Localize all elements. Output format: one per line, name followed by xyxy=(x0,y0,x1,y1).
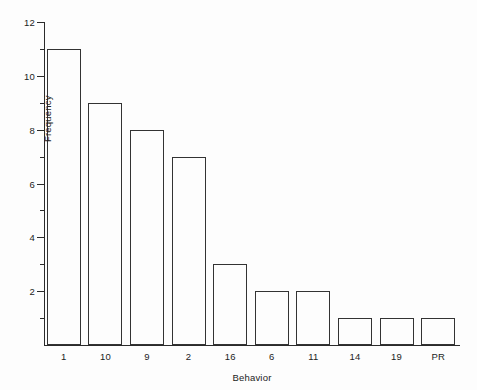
bar xyxy=(213,264,247,345)
y-axis-tick xyxy=(40,157,44,158)
y-axis-title: Frequency xyxy=(42,95,53,142)
x-axis-title: Behavior xyxy=(44,372,460,383)
bar xyxy=(130,130,164,345)
x-axis-tick-label: 11 xyxy=(308,351,318,362)
x-axis-tick-label: 14 xyxy=(350,351,361,362)
bar xyxy=(296,291,330,345)
x-axis-tick-label: 1 xyxy=(61,351,66,362)
y-axis-tick-label: 6 xyxy=(30,178,35,189)
y-axis-tick xyxy=(37,291,44,292)
y-axis-tick-label: 8 xyxy=(30,124,35,135)
bar xyxy=(421,318,455,345)
x-axis-tick-label: 16 xyxy=(225,351,236,362)
y-axis-tick xyxy=(37,237,44,238)
x-axis-tick-label: 6 xyxy=(269,351,274,362)
y-axis-tick-label: 4 xyxy=(30,232,35,243)
y-axis-tick-label: 2 xyxy=(30,286,35,297)
y-axis-tick xyxy=(40,264,44,265)
x-axis-tick-label: 19 xyxy=(391,351,402,362)
y-axis-tick-label: 10 xyxy=(24,70,35,81)
x-axis-line xyxy=(44,345,460,346)
bar xyxy=(255,291,289,345)
x-axis-tick-label: 9 xyxy=(144,351,149,362)
y-axis-line xyxy=(44,22,45,345)
y-axis-tick xyxy=(37,184,44,185)
x-axis-tick-label: 2 xyxy=(186,351,191,362)
y-axis-tick xyxy=(40,49,44,50)
bar xyxy=(47,49,81,345)
x-axis-tick-label: PR xyxy=(431,351,445,362)
y-axis-tick xyxy=(40,318,44,319)
bar xyxy=(338,318,372,345)
y-axis-tick xyxy=(37,22,44,23)
y-axis-tick xyxy=(40,210,44,211)
chart-figure: 12108642 11092166111419PR Behavior Frequ… xyxy=(0,0,477,390)
x-axis-tick-label: 10 xyxy=(100,351,111,362)
plot-area: 12108642 11092166111419PR Behavior Frequ… xyxy=(44,22,460,345)
y-axis-tick xyxy=(37,76,44,77)
y-axis-tick-label: 12 xyxy=(24,17,35,28)
bar xyxy=(172,157,206,345)
bar xyxy=(380,318,414,345)
bar xyxy=(88,103,122,345)
